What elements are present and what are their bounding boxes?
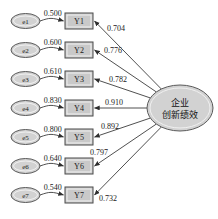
error-node-label: e3 [22,76,29,84]
loading-coefficient-label-Y5: 0.892 [101,122,119,131]
indicator-node-label: Y4 [74,104,84,113]
error-node-label: e5 [22,134,29,142]
error-coefficient-label-e5: 0.800 [44,125,62,134]
indicator-node-Y4[interactable]: Y4 [65,100,93,116]
error-node-label: e7 [22,192,29,200]
indicator-node-label: Y6 [74,162,84,171]
indicator-node-Y7[interactable]: Y7 [65,187,93,203]
indicator-node-Y5[interactable]: Y5 [65,129,93,145]
indicator-node-Y1[interactable]: Y1 [65,13,93,29]
error-coefficient-label-e4: 0.830 [44,96,62,105]
error-coefficient-label-e7: 0.540 [44,183,62,192]
loading-coefficient-label-Y4: 0.910 [105,98,123,107]
loading-path-Y2 [95,50,157,92]
latent-label-line2: 创新绩效 [162,109,198,120]
indicator-node-Y3[interactable]: Y3 [65,71,93,87]
error-node-e2[interactable]: e2 [11,43,40,58]
loading-coefficient-label-Y1: 0.704 [107,24,125,33]
error-path-e6 [40,163,64,166]
indicator-node-label: Y3 [74,75,84,84]
error-coefficient-label-e3: 0.610 [44,67,62,76]
error-node-label: e1 [22,18,29,26]
error-node-e1[interactable]: e1 [11,14,40,29]
indicator-node-label: Y2 [74,46,84,55]
indicator-node-label: Y7 [74,191,84,200]
latent-construct-node[interactable]: 企业 创新绩效 [147,85,213,131]
error-path-e2 [40,47,64,50]
error-path-e5 [40,134,64,137]
loading-coefficient-label-Y3: 0.782 [109,75,127,84]
error-node-label: e2 [22,47,29,55]
error-path-e1 [40,18,64,21]
indicator-node-Y2[interactable]: Y2 [65,42,93,58]
sem-path-diagram: e1Y1e2Y2e3Y3e4Y4e5Y5e6Y6e7Y7 0.5000.7040… [0,0,218,219]
error-path-e7 [40,192,64,195]
error-coefficient-label-e2: 0.600 [44,38,62,47]
diagram-canvas: e1Y1e2Y2e3Y3e4Y4e5Y5e6Y6e7Y7 0.5000.7040… [0,0,218,219]
indicator-node-label: Y5 [74,133,84,142]
loading-coefficient-label-Y2: 0.776 [104,46,122,55]
loading-coefficient-label-Y6: 0.797 [90,148,108,157]
error-path-e3 [40,76,64,79]
error-coefficient-label-e6: 0.640 [44,154,62,163]
error-node-e6[interactable]: e6 [11,159,40,174]
error-coefficient-label-e1: 0.500 [44,9,62,18]
error-path-e4 [40,105,64,108]
error-node-label: e4 [22,105,29,113]
indicator-node-label: Y1 [74,17,84,26]
error-node-e5[interactable]: e5 [11,130,40,145]
loading-path-Y7 [95,127,162,195]
error-node-e7[interactable]: e7 [11,188,40,203]
indicator-node-Y6[interactable]: Y6 [65,158,93,174]
error-node-e3[interactable]: e3 [11,72,40,87]
latent-label-line1: 企业 [171,97,189,108]
error-node-e4[interactable]: e4 [11,101,40,116]
loading-coefficient-label-Y7: 0.732 [99,194,117,203]
loading-path-Y1 [95,21,162,89]
error-node-label: e6 [22,163,29,171]
